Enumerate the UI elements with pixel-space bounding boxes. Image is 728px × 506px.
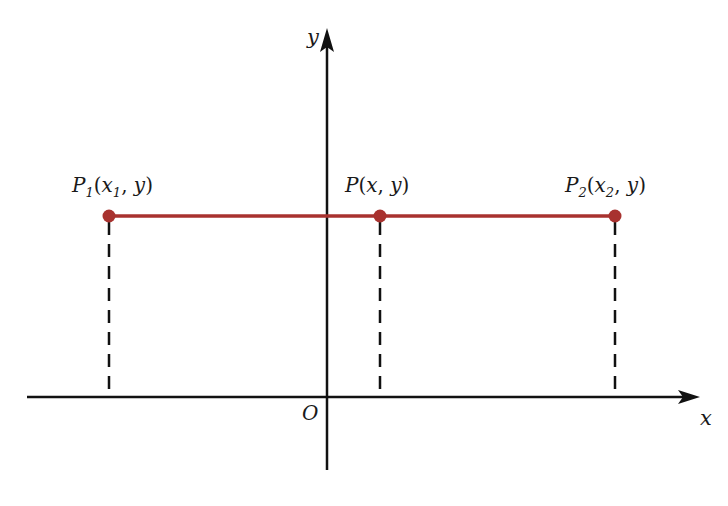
x-axis-label: x — [700, 406, 712, 430]
y-axis — [320, 28, 334, 470]
projection-lines — [109, 222, 615, 397]
diagram-canvas: y x O P1(x1, y) P(x, y) P2(x2, y) — [0, 0, 728, 506]
label-p2: P2(x2, y) — [564, 173, 646, 200]
label-p: P(x, y) — [344, 173, 409, 197]
point-p1 — [103, 210, 116, 223]
origin-label: O — [302, 401, 318, 425]
x-axis — [27, 390, 700, 404]
y-axis-label: y — [306, 25, 320, 49]
point-p2 — [609, 210, 622, 223]
label-p1: P1(x1, y) — [71, 173, 153, 200]
point-p — [374, 210, 387, 223]
